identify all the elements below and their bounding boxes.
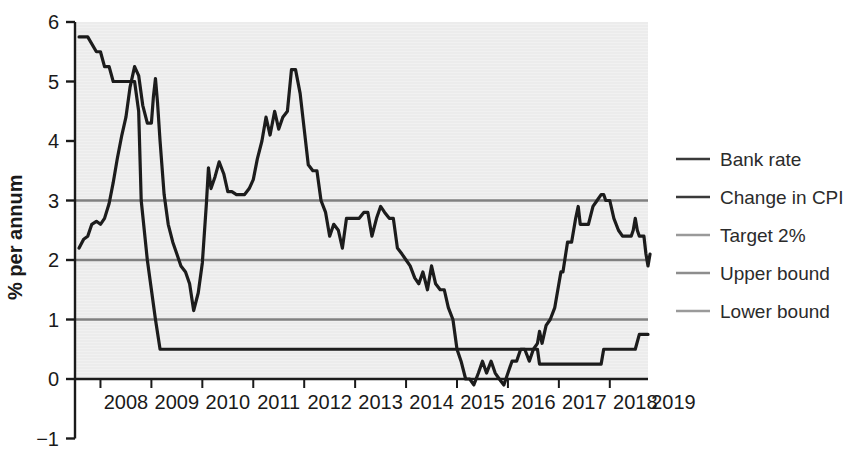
x-tick-label: 2010 bbox=[206, 391, 251, 413]
y-tick-label: 4 bbox=[48, 130, 59, 152]
line-chart: −10123456 200820092010201120122013201420… bbox=[0, 0, 852, 460]
y-tick-label: 6 bbox=[48, 11, 59, 33]
chart-legend: Bank rateChange in CPITarget 2%Upper bou… bbox=[676, 149, 844, 322]
y-tick-label: 1 bbox=[48, 309, 59, 331]
x-tick-label: 2012 bbox=[307, 391, 352, 413]
x-tick-label: 2019 bbox=[651, 391, 696, 413]
legend-label: Target 2% bbox=[720, 225, 806, 246]
x-tick-label: 2013 bbox=[358, 391, 403, 413]
legend-label: Change in CPI bbox=[720, 187, 844, 208]
x-tick-label: 2016 bbox=[511, 391, 556, 413]
y-tick-label: 3 bbox=[48, 190, 59, 212]
y-tick-label: 0 bbox=[48, 368, 59, 390]
y-axis-label: % per annum bbox=[4, 174, 26, 300]
x-axis-ticks: 2008200920102011201220132014201520162017… bbox=[100, 379, 695, 413]
legend-label: Lower bound bbox=[720, 301, 830, 322]
x-tick-label: 2017 bbox=[562, 391, 607, 413]
x-tick-label: 2015 bbox=[460, 391, 505, 413]
x-tick-label: 2011 bbox=[257, 391, 300, 413]
x-tick-label: 2008 bbox=[104, 391, 149, 413]
y-tick-label: 2 bbox=[48, 249, 59, 271]
y-tick-label: 5 bbox=[48, 71, 59, 93]
x-tick-label: 2014 bbox=[409, 391, 454, 413]
legend-label: Upper bound bbox=[720, 263, 830, 284]
x-tick-label: 2009 bbox=[155, 391, 200, 413]
y-axis-ticks: −10123456 bbox=[36, 11, 75, 450]
y-tick-label: −1 bbox=[36, 428, 59, 450]
legend-label: Bank rate bbox=[720, 149, 801, 170]
chart-container: −10123456 200820092010201120122013201420… bbox=[0, 0, 852, 460]
